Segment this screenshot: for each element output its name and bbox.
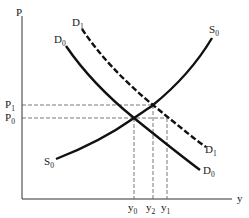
label-s0-bottom: S0 <box>44 155 54 170</box>
supply-demand-diagram: P y D1 D0 S0 S0 D1 D0 P1 P0 y0 y2 y1 <box>0 0 249 218</box>
label-d1-bottom: D1 <box>205 143 217 158</box>
label-d0-bottom: D0 <box>203 164 215 179</box>
axis-label-p: P <box>16 6 22 18</box>
axis-label-y: y <box>237 192 243 204</box>
demand-curve-d0 <box>66 46 200 170</box>
label-d0-top: D0 <box>54 33 66 48</box>
label-y1: y1 <box>161 201 171 216</box>
label-y0: y0 <box>128 201 138 216</box>
guide-lines <box>22 105 167 199</box>
label-d1-top: D1 <box>72 16 84 31</box>
supply-curve-s0 <box>56 38 212 159</box>
label-y2: y2 <box>146 201 156 216</box>
label-p0: P0 <box>5 111 15 126</box>
label-s0-top: S0 <box>209 23 219 38</box>
